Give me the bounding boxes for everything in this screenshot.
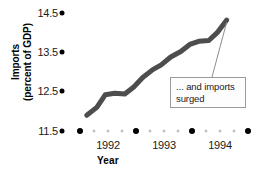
annotation-text-line1: ... and imports [176, 81, 241, 93]
chart-figure: Imports (percent of GDP) 14.5 13.5 12.5 … [0, 0, 275, 175]
annotation-callout: ... and imports surged [170, 77, 246, 108]
annotation-text-line2: surged [176, 93, 241, 105]
